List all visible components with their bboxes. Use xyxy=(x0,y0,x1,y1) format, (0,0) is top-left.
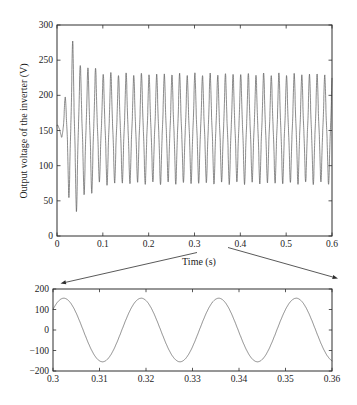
x-tick-label: 0.36 xyxy=(324,374,341,384)
figure-inverter-output-voltage: Output voltage of the inverter (V) Time … xyxy=(0,0,357,405)
x-ticks-zoom-view: 0.30.310.320.330.340.350.36 xyxy=(47,289,341,384)
top-plot-y-axis-label: Output voltage of the inverter (V) xyxy=(18,63,30,198)
x-tick-label: 0.31 xyxy=(91,374,108,384)
zoom-arrow-right xyxy=(228,248,338,279)
arrow-shaft xyxy=(228,248,333,278)
y-tick-label: 150 xyxy=(39,126,54,136)
x-tick-label: 0.1 xyxy=(97,239,109,249)
waveform-full-view xyxy=(57,41,332,212)
figure-canvas: Output voltage of the inverter (V) Time … xyxy=(0,0,357,405)
x-tick-label: 0.3 xyxy=(189,239,201,249)
y-tick-label: 300 xyxy=(39,20,54,30)
x-tick-label: 0.35 xyxy=(277,374,294,384)
plot-frame-full-view xyxy=(57,25,332,236)
arrow-head-icon xyxy=(61,280,67,284)
y-tick-label: 0 xyxy=(48,231,53,241)
y-tick-label: 100 xyxy=(39,161,54,171)
y-tick-label: 0 xyxy=(44,325,49,335)
x-tick-label: 0.32 xyxy=(138,374,155,384)
y-tick-label: −100 xyxy=(29,346,49,356)
arrow-head-icon xyxy=(332,275,338,279)
plot-frame-zoom-view xyxy=(53,289,332,371)
y-tick-label: 250 xyxy=(39,55,54,65)
top-plot-x-axis-label: Time (s) xyxy=(182,256,216,268)
plot-full-view: 00.10.20.30.40.50.6050100150200250300 xyxy=(39,20,338,249)
x-tick-label: 0.4 xyxy=(234,239,246,249)
y-tick-label: 200 xyxy=(39,90,54,100)
waveform-zoom-view xyxy=(53,298,332,362)
plot-zoom-view: 0.30.310.320.330.340.350.36−200−10001002… xyxy=(29,284,340,384)
y-tick-label: 50 xyxy=(44,196,54,206)
x-tick-label: 0.34 xyxy=(231,374,248,384)
y-tick-label: 100 xyxy=(35,305,50,315)
y-tick-label: 200 xyxy=(35,284,50,294)
x-tick-label: 0.2 xyxy=(143,239,155,249)
x-tick-label: 0.6 xyxy=(326,239,338,249)
x-ticks-full-view: 00.10.20.30.40.50.6 xyxy=(55,25,339,249)
x-tick-label: 0.33 xyxy=(184,374,201,384)
y-tick-label: −200 xyxy=(29,366,49,376)
plots-layer: 00.10.20.30.40.50.60501001502002503000.3… xyxy=(29,20,340,384)
x-tick-label: 0 xyxy=(55,239,60,249)
zoom-arrow-left xyxy=(61,253,198,285)
arrow-shaft xyxy=(66,253,197,283)
y-ticks-zoom-view: −200−1000100200 xyxy=(29,284,332,376)
x-tick-label: 0.5 xyxy=(280,239,292,249)
